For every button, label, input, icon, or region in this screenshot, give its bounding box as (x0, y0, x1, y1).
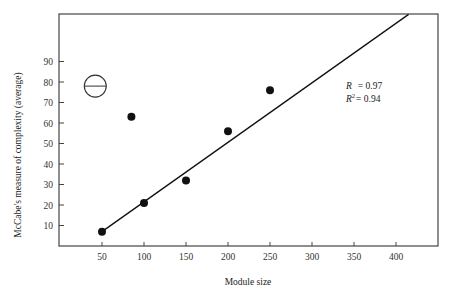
plot-frame (59, 14, 438, 246)
x-tick-label: 250 (263, 252, 278, 262)
y-axis-ticks: 102030405060708090 (44, 57, 65, 231)
data-point (98, 228, 106, 236)
regression-line (102, 14, 409, 231)
y-tick-label: 40 (44, 160, 54, 170)
y-tick-label: 30 (44, 180, 54, 190)
x-tick-label: 100 (137, 252, 152, 262)
y-tick-label: 10 (44, 221, 54, 231)
y-tick-label: 80 (44, 78, 54, 88)
r-annotation: R= 0.97 (345, 81, 382, 91)
x-tick-label: 50 (97, 252, 107, 262)
data-point (224, 127, 232, 135)
x-axis-ticks: 50100150200250300350400 (97, 242, 403, 262)
r2-annotation: R2= 0.94 (345, 92, 381, 104)
data-point (140, 199, 148, 207)
x-tick-label: 200 (221, 252, 236, 262)
y-axis-label: McCabe's measure of complexity (average) (13, 72, 24, 237)
data-points (98, 86, 274, 235)
x-tick-label: 300 (305, 252, 320, 262)
y-tick-label: 60 (44, 119, 54, 129)
x-tick-label: 400 (389, 252, 404, 262)
y-tick-label: 90 (44, 57, 54, 67)
data-point (182, 176, 190, 184)
data-point (266, 86, 274, 94)
y-tick-label: 50 (44, 139, 54, 149)
open-circle-marker (84, 75, 106, 97)
x-tick-label: 150 (179, 252, 194, 262)
correlation-annotation: R= 0.97 R2= 0.94 (345, 81, 382, 104)
x-tick-label: 350 (347, 252, 362, 262)
scatter-chart: 50100150200250300350400 1020304050607080… (0, 0, 452, 301)
y-tick-label: 20 (44, 201, 54, 211)
data-point (127, 113, 135, 121)
y-tick-label: 70 (44, 98, 54, 108)
x-axis-label: Module size (225, 277, 272, 287)
